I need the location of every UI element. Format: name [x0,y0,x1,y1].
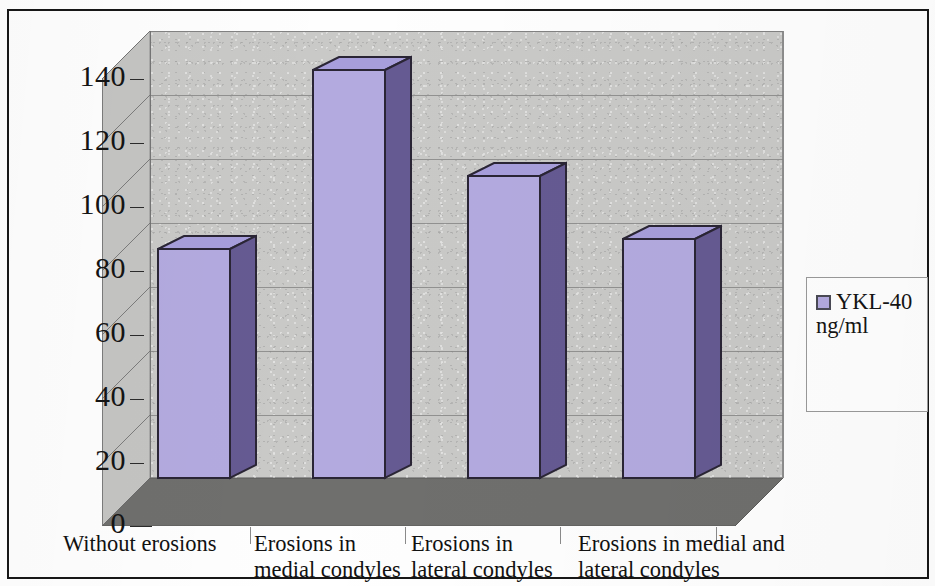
y-tick-mark-120 [130,143,144,144]
bar-without-erosions[interactable] [158,249,230,478]
x-category-label-line: medial condyles [254,557,414,583]
chart-floor-plane [102,478,783,526]
x-category-label-line: lateral condyles [578,557,848,583]
x-category-label-erosions-lateral: Erosions in lateral condyles [411,531,576,582]
bar-erosions-lateral-condyles[interactable] [468,176,540,478]
wall-left-edge [150,31,151,478]
gridline-100 [150,159,783,160]
y-tick-mark-80 [130,271,144,272]
legend-label-line2: ng/ml [816,313,869,340]
legend-color-swatch-icon [816,295,831,310]
x-category-label-erosions-medial: Erosions in medial condyles [254,531,414,582]
bar-erosions-medial-condyles[interactable] [313,70,385,478]
y-tick-label-100: 100 [80,189,127,219]
y-tick-label-140: 140 [80,61,127,91]
gridline-140 [150,31,783,32]
x-category-label-line: lateral condyles [411,557,576,583]
y-tick-label-120: 120 [80,125,127,155]
wall-right-edge [783,31,784,478]
y-tick-label-40: 40 [95,381,126,411]
x-category-label-without-erosions: Without erosions [63,531,253,557]
chart-legend: YKL-40 ng/ml [806,277,928,412]
gridline-120 [150,95,783,96]
bar-erosions-medial-and-lateral-condyles[interactable] [623,239,695,478]
x-category-label-line: Without erosions [63,531,253,557]
y-tick-label-20: 20 [95,445,126,475]
y-tick-mark-20 [130,463,144,464]
y-tick-mark-60 [130,335,144,336]
legend-label-line1: YKL-40 [836,289,912,314]
y-tick-mark-140 [130,79,144,80]
x-category-label-erosions-medial-and-lateral: Erosions in medial and lateral condyles [578,531,848,582]
y-tick-mark-0 [130,526,152,527]
x-category-label-line: Erosions in [411,531,576,557]
y-tick-label-60: 60 [95,317,126,347]
x-category-label-line: Erosions in medial and [578,531,848,557]
y-tick-mark-100 [130,207,144,208]
y-tick-label-80: 80 [95,253,126,283]
gridline-80 [150,223,783,224]
bar-chart-plot-area: 140 120 100 80 60 40 20 0 Without erosio… [0,0,935,586]
y-tick-mark-40 [130,399,144,400]
x-category-label-line: Erosions in [254,531,414,557]
legend-entry-ykl40[interactable]: YKL-40 [816,289,924,316]
